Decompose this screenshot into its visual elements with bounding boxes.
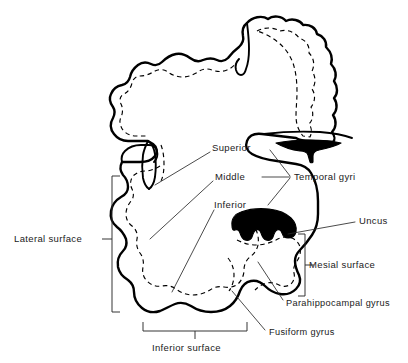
brainstem-wedge-path: [276, 140, 341, 163]
label-middle: Middle: [215, 172, 245, 182]
leader-fusiform: [232, 291, 265, 330]
label-temporal-gyri: Temporal gyri: [294, 172, 356, 182]
label-mesial-surface: Mesial surface: [309, 260, 375, 270]
cortex-outline-path: [110, 17, 337, 312]
brain-diagram-figure: Superior Middle Inferior Temporal gyri U…: [0, 0, 408, 363]
label-parahippocampal-gyrus: Parahippocampal gyrus: [286, 299, 390, 308]
label-inferior: Inferior: [214, 200, 246, 210]
label-fusiform-gyrus: Fusiform gyrus: [269, 328, 335, 337]
label-lateral-surface: Lateral surface: [14, 234, 82, 244]
label-superior: Superior: [212, 143, 251, 153]
label-inferior-surface: Inferior surface: [152, 343, 221, 353]
label-uncus: Uncus: [359, 216, 388, 226]
inferior-surface-bracket: [143, 322, 247, 331]
lateral-surface-bracket: [112, 176, 120, 312]
cortex-outline-group: [110, 17, 337, 312]
